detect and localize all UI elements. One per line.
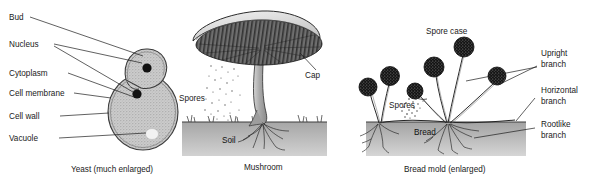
spore-case-2: [381, 67, 400, 86]
label-rootlike-branch-line2: branch: [541, 131, 566, 140]
spore-case-5: [454, 37, 474, 57]
leader-bud: [30, 17, 143, 56]
fungi-diagram: Bud Nucleus Cytoplasm Cell membrane Cell…: [0, 0, 594, 183]
leader-cell-membrane: [74, 93, 111, 98]
label-cytoplasm: Cytoplasm: [9, 69, 48, 78]
label-cell-wall: Cell wall: [9, 112, 40, 121]
spore-case-4: [424, 57, 444, 77]
caption-mushroom: Mushroom: [244, 163, 283, 172]
label-horizontal-branch-line2: branch: [541, 97, 566, 106]
label-spores-mold: Spores: [389, 101, 415, 110]
label-bud: Bud: [9, 13, 24, 22]
label-cell-membrane: Cell membrane: [9, 89, 65, 98]
label-upright-branch-line2: branch: [541, 60, 566, 69]
soil-block: [182, 122, 327, 156]
mushroom-spores-dots: [204, 65, 240, 120]
caption-yeast: Yeast (much enlarged): [71, 165, 153, 174]
label-spores-mushroom: Spores: [179, 94, 205, 103]
leader-horizontal-branch: [516, 98, 535, 121]
panel-bread-mold: Spore case Spores Bread Upright branch H…: [359, 27, 578, 174]
caption-bread-mold: Bread mold (enlarged): [404, 165, 486, 174]
label-rootlike-branch-line1: Rootlike: [541, 120, 571, 129]
label-nucleus: Nucleus: [9, 40, 39, 49]
label-spore-case: Spore case: [426, 27, 468, 36]
label-cap: Cap: [305, 71, 320, 80]
spore-case-3: [407, 83, 423, 99]
leader-nucleus-b: [54, 46, 133, 92]
panel-yeast: Bud Nucleus Cytoplasm Cell membrane Cell…: [9, 13, 178, 174]
label-vacuole: Vacuole: [9, 134, 38, 143]
sporangiophores: [359, 37, 506, 124]
vacuole-shape: [146, 129, 159, 140]
label-horizontal-branch-line1: Horizontal: [541, 86, 578, 95]
spore-case-1: [359, 78, 377, 96]
label-soil: Soil: [222, 136, 236, 145]
label-upright-branch-line1: Upright: [541, 49, 568, 58]
nucleus-bud: [142, 63, 151, 72]
label-bread: Bread: [414, 128, 436, 137]
leader-cell-wall: [60, 113, 109, 116]
panel-mushroom: Spores Cap Soil Mushroom: [179, 11, 327, 172]
